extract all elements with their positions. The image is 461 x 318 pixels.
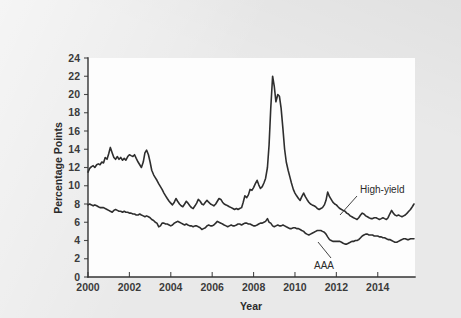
y-tick-label: 18 xyxy=(68,106,80,118)
aaa-series-label: AAA xyxy=(314,260,334,271)
x-axis-tick-labels: 20002002200420062008201020122014 xyxy=(76,281,389,293)
x-axis-title: Year xyxy=(240,300,262,312)
x-tick-label: 2000 xyxy=(76,281,100,293)
x-tick-label: 2002 xyxy=(118,281,142,293)
x-tick-label: 2008 xyxy=(242,281,266,293)
chart-canvas: 024681012141618202224 200020022004200620… xyxy=(0,0,461,318)
x-tick-label: 2006 xyxy=(200,281,224,293)
y-tick-label: 4 xyxy=(74,234,80,246)
y-tick-label: 20 xyxy=(68,88,80,100)
y-tick-label: 2 xyxy=(74,252,80,264)
x-tick-label: 2004 xyxy=(159,281,183,293)
y-tick-label: 14 xyxy=(68,143,80,155)
y-tick-label: 22 xyxy=(68,70,80,82)
x-tick-label: 2014 xyxy=(366,281,390,293)
high-yield-series-label: High-yield xyxy=(360,184,404,195)
line-chart-figure: 024681012141618202224 200020022004200620… xyxy=(0,0,461,318)
plot-area-background xyxy=(88,58,415,277)
y-tick-label: 12 xyxy=(68,161,80,173)
y-tick-label: 16 xyxy=(68,125,80,137)
y-tick-label: 8 xyxy=(74,198,80,210)
y-axis-tick-labels: 024681012141618202224 xyxy=(68,52,80,283)
y-tick-label: 10 xyxy=(68,179,80,191)
y-tick-label: 6 xyxy=(74,216,80,228)
y-tick-label: 24 xyxy=(68,52,80,64)
y-axis-title: Percentage Points xyxy=(52,122,64,214)
x-tick-label: 2012 xyxy=(325,281,349,293)
x-tick-label: 2010 xyxy=(283,281,307,293)
